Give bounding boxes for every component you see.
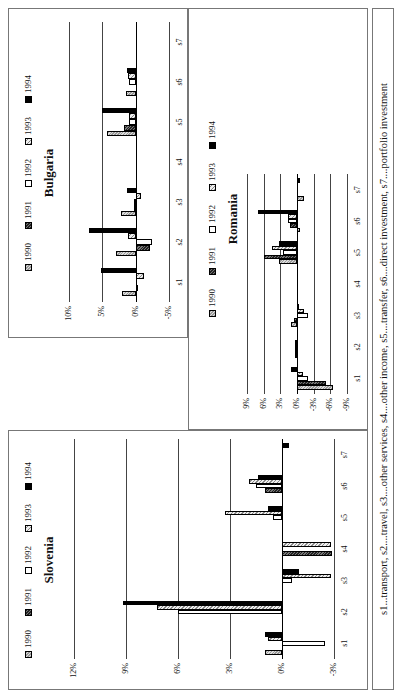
- legend-item-1990: 1990: [23, 243, 33, 271]
- x-tick-label: s6: [353, 206, 362, 236]
- y-tick-label: -9%: [342, 398, 351, 426]
- gridline: [264, 174, 265, 394]
- legend-swatch: [209, 310, 216, 317]
- x-tick-label: s7: [340, 440, 349, 470]
- bar-s7-1990: [297, 196, 304, 200]
- zero-axis: [297, 174, 298, 394]
- y-tick-label: 3%: [275, 398, 284, 426]
- bar-s2-1992: [295, 345, 297, 349]
- y-tick-label: 12%: [69, 663, 78, 691]
- bar-s1-1990: [297, 385, 333, 389]
- chart-legend: 19901991199219931994: [23, 9, 33, 337]
- legend-item-1991: 1991: [23, 201, 33, 229]
- legend-swatch: [209, 184, 216, 191]
- bar-s3-1992: [282, 578, 292, 582]
- legend-item-1992: 1992: [207, 205, 217, 233]
- y-tick-label: -5%: [164, 306, 173, 334]
- y-tick-label: -3%: [309, 398, 318, 426]
- y-tick-label: 9%: [121, 663, 130, 691]
- bar-s5-1992: [273, 515, 282, 519]
- legend-swatch: [25, 264, 32, 271]
- rotated-page: Slovenia 19901991199219931994 -3%0%3%6%9…: [0, 0, 407, 698]
- bar-s6-1990: [126, 91, 135, 97]
- bar-s2-1993: [295, 340, 297, 344]
- bar-s2-1993: [157, 605, 282, 609]
- y-tick-label: 0%: [292, 398, 301, 426]
- bar-s6-1993: [249, 479, 282, 483]
- legend-item-1991: 1991: [23, 588, 33, 616]
- bar-s6-1994: [258, 475, 282, 479]
- bar-s5-1991: [264, 255, 297, 259]
- legend-swatch: [25, 567, 32, 574]
- bar-s1-1990: [122, 291, 135, 297]
- gridline: [314, 174, 315, 394]
- gridline: [347, 174, 348, 394]
- bar-s1-1993: [136, 273, 145, 279]
- legend-swatch: [25, 651, 32, 658]
- legend-swatch: [25, 222, 32, 229]
- bar-s2-1992: [136, 239, 153, 245]
- legend-item-1993: 1993: [207, 163, 217, 191]
- bar-s6-1990: [297, 228, 300, 232]
- x-tick-label: s5: [175, 107, 184, 137]
- x-tick-label: s6: [340, 471, 349, 501]
- y-tick-label: 5%: [97, 306, 106, 334]
- bar-s5-1990: [279, 259, 297, 263]
- bar-s5-1993: [272, 246, 297, 250]
- chart-legend: 19901991199219931994: [207, 9, 217, 429]
- legend-swatch: [25, 483, 32, 490]
- x-tick-label: s4: [353, 269, 362, 299]
- bar-s3-1990: [121, 211, 136, 217]
- gridline: [247, 174, 248, 394]
- bar-s5-1991: [124, 125, 136, 131]
- legend-item-1994: 1994: [23, 75, 33, 103]
- chart-legend: 19901991199219931994: [23, 431, 33, 689]
- gridline: [330, 174, 331, 394]
- bar-s1-1992: [297, 376, 308, 380]
- legend-swatch: [25, 138, 32, 145]
- chart-title: Romania: [225, 9, 241, 429]
- gridline: [178, 439, 179, 659]
- bar-s4-1991: [282, 551, 332, 555]
- y-tick-label: -3%: [329, 663, 338, 691]
- slovenia-panel: Slovenia 19901991199219931994 -3%0%3%6%9…: [8, 430, 368, 690]
- bar-s3-1993: [282, 574, 331, 578]
- bar-s2-1990: [116, 251, 136, 257]
- y-tick-label: 10%: [64, 306, 73, 334]
- bar-s3-1994: [282, 569, 299, 573]
- chart-title: Slovenia: [41, 431, 57, 689]
- bar-s5-1993: [129, 113, 136, 119]
- bar-s1-1994: [101, 268, 136, 274]
- gridline: [169, 22, 170, 302]
- y-tick-label: -6%: [325, 398, 334, 426]
- legend-swatch: [209, 142, 216, 149]
- y-tick-label: 0%: [131, 306, 140, 334]
- bar-s3-1994: [127, 188, 136, 194]
- gridline: [280, 174, 281, 394]
- bar-s2-1993: [128, 233, 136, 239]
- bar-s5-1990: [107, 131, 136, 137]
- bar-s1-1991: [297, 381, 326, 385]
- bar-s2-1991: [136, 245, 151, 251]
- x-tick-label: s2: [340, 597, 349, 627]
- legend-item-1990: 1990: [23, 630, 33, 658]
- bar-s1-1990: [265, 650, 282, 654]
- bar-s5-1994: [268, 506, 282, 510]
- bar-s3-1992: [297, 313, 308, 317]
- romania-panel: Romania 19901991199219931994 -9%-6%-3%0%…: [188, 8, 368, 430]
- x-tick-label: s6: [175, 67, 184, 97]
- x-tick-label: s3: [340, 565, 349, 595]
- chart-title: Bulgaria: [41, 9, 57, 337]
- legend-swatch: [25, 525, 32, 532]
- bar-s7-1994: [282, 444, 289, 448]
- gridline: [69, 22, 70, 302]
- legend-item-1994: 1994: [207, 121, 217, 149]
- bar-s3-1991: [134, 205, 136, 211]
- bar-s1-1993: [268, 637, 282, 641]
- gridline: [74, 439, 75, 659]
- x-tick-label: s2: [353, 332, 362, 362]
- legend-swatch: [209, 226, 216, 233]
- x-tick-label: s7: [175, 27, 184, 57]
- legend-swatch: [209, 268, 216, 275]
- bar-s3-1992: [134, 199, 136, 205]
